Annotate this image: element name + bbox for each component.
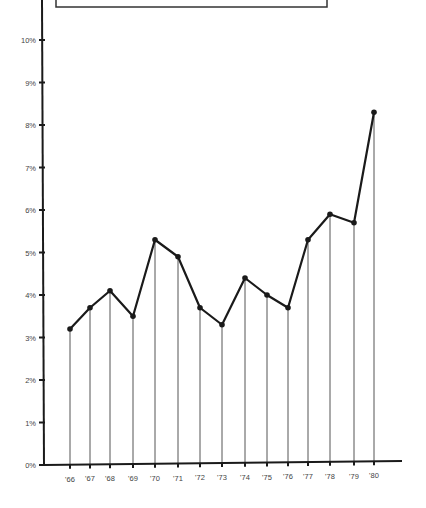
y-tick-label: 0% — [25, 461, 36, 470]
x-tick-label: '67 — [85, 474, 95, 483]
y-tick-label: 6% — [25, 206, 36, 215]
x-tick-label: '76 — [283, 472, 293, 481]
data-point — [327, 211, 333, 217]
data-point — [242, 275, 248, 281]
y-axis — [42, 0, 44, 465]
x-tick-label: '78 — [325, 472, 335, 481]
data-point — [371, 109, 377, 115]
y-tick-label: 5% — [25, 249, 36, 258]
y-axis-ticks: 0%1%2%3%4%5%6%7%8%9%10% — [21, 36, 45, 470]
x-tick-label: '72 — [195, 473, 205, 482]
y-tick-label: 7% — [25, 164, 36, 173]
drop-lines — [70, 112, 374, 464]
x-tick-label: '80 — [369, 471, 379, 480]
x-tick-label: '70 — [150, 474, 160, 483]
y-tick-label: 3% — [25, 334, 36, 343]
series-line — [70, 112, 374, 329]
data-point — [264, 292, 270, 298]
y-tick-label: 4% — [25, 291, 36, 300]
x-tick-label: '77 — [303, 472, 313, 481]
data-point — [197, 305, 203, 311]
data-point — [285, 305, 291, 311]
y-tick-label: 1% — [25, 419, 36, 428]
x-tick-label: '69 — [128, 474, 138, 483]
y-tick-label: 10% — [21, 36, 36, 45]
x-tick-label: '74 — [240, 473, 250, 482]
header-box — [56, 0, 327, 7]
data-point — [87, 305, 93, 311]
x-tick-label: '79 — [349, 472, 359, 481]
data-point — [130, 313, 136, 319]
data-point — [67, 326, 73, 332]
y-tick-label: 9% — [25, 79, 36, 88]
y-tick-label: 2% — [25, 376, 36, 385]
x-tick-label: '73 — [217, 473, 227, 482]
line-chart: 0%1%2%3%4%5%6%7%8%9%10% '66'67'68'69'70'… — [0, 0, 426, 508]
x-tick-label: '68 — [105, 474, 115, 483]
data-point — [351, 220, 357, 226]
data-point — [305, 237, 311, 243]
x-tick-label: '71 — [173, 474, 183, 483]
data-point — [152, 237, 158, 243]
x-tick-label: '75 — [262, 473, 272, 482]
data-point — [175, 254, 181, 260]
y-tick-label: 8% — [25, 121, 36, 130]
x-tick-label: '66 — [65, 475, 75, 484]
data-point — [219, 322, 225, 328]
data-point — [107, 288, 113, 294]
